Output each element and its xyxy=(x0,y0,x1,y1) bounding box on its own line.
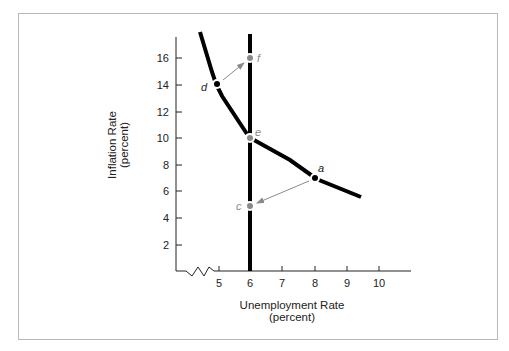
svg-text:Unemployment Rate: Unemployment Rate xyxy=(240,299,345,311)
x-tick-labels: 5 6 7 8 9 10 xyxy=(216,277,385,289)
svg-text:7: 7 xyxy=(279,277,285,289)
arrow-d-to-f xyxy=(223,63,244,80)
label-a: a xyxy=(318,162,324,174)
svg-text:12: 12 xyxy=(157,106,169,118)
svg-text:6: 6 xyxy=(247,277,253,289)
svg-text:14: 14 xyxy=(157,79,169,91)
x-axis xyxy=(176,267,411,276)
svg-text:2: 2 xyxy=(163,239,169,251)
label-d: d xyxy=(201,81,208,93)
svg-text:6: 6 xyxy=(163,185,169,197)
label-e: e xyxy=(255,126,261,138)
svg-text:(percent): (percent) xyxy=(269,311,315,323)
point-c xyxy=(247,203,253,209)
svg-text:Inflation Rate: Inflation Rate xyxy=(106,111,118,179)
svg-text:10: 10 xyxy=(373,277,385,289)
svg-text:8: 8 xyxy=(163,159,169,171)
svg-text:9: 9 xyxy=(344,277,350,289)
point-a xyxy=(312,175,318,181)
short-run-curve-lower xyxy=(254,140,361,197)
point-f xyxy=(247,55,253,61)
y-axis-title: Inflation Rate (percent) xyxy=(106,111,130,179)
svg-text:8: 8 xyxy=(312,277,318,289)
svg-text:(percent): (percent) xyxy=(118,122,130,168)
point-e xyxy=(247,135,253,141)
point-d xyxy=(214,81,220,87)
svg-text:16: 16 xyxy=(157,52,169,64)
y-ticks xyxy=(176,58,182,245)
phillips-curve-chart: 2 4 6 8 10 12 14 16 5 6 7 8 9 10 Unemplo… xyxy=(0,0,509,351)
x-axis-title: Unemployment Rate (percent) xyxy=(240,299,345,323)
svg-text:10: 10 xyxy=(157,132,169,144)
svg-text:4: 4 xyxy=(163,212,169,224)
label-f: f xyxy=(257,52,261,64)
svg-text:5: 5 xyxy=(216,277,222,289)
y-tick-labels: 2 4 6 8 10 12 14 16 xyxy=(157,52,169,251)
x-ticks xyxy=(219,266,379,271)
arrow-a-to-c xyxy=(257,181,309,203)
label-c: c xyxy=(236,200,242,212)
